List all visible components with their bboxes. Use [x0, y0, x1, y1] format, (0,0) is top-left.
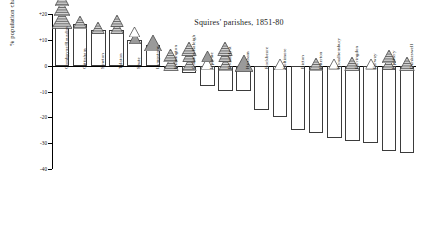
- category-label: Bicton: [300, 55, 305, 69]
- y-tick: [48, 169, 52, 170]
- triangle-stack: [129, 27, 141, 44]
- bar-column[interactable]: [200, 14, 215, 169]
- bar-column[interactable]: [91, 14, 106, 169]
- y-tick-label: -30: [40, 140, 47, 146]
- category-label: Dunkeswell: [409, 44, 414, 69]
- chart-root: Squires' parishes, 1851-80 % population …: [0, 0, 426, 231]
- bar-column[interactable]: [309, 14, 324, 169]
- bar[interactable]: [327, 66, 342, 138]
- y-tick: [48, 40, 52, 41]
- y-tick: [48, 117, 52, 118]
- category-label: Broadclyst: [227, 46, 232, 69]
- y-tick: [48, 92, 52, 93]
- triangle-marker: [92, 22, 105, 34]
- bar-column[interactable]: [109, 14, 124, 169]
- bar[interactable]: [273, 66, 288, 118]
- y-tick-label: -20: [40, 114, 47, 120]
- y-tick-label: -10: [40, 89, 47, 95]
- triangle-stack: [92, 22, 105, 34]
- y-tick-label: -40: [40, 166, 47, 172]
- category-label: Gittisham: [82, 48, 87, 69]
- bar-column[interactable]: [146, 14, 161, 169]
- category-label: Uplyme: [209, 52, 214, 69]
- bar[interactable]: [382, 66, 397, 151]
- category-label: Broadhembury: [336, 37, 341, 68]
- category-label: Lympstone: [155, 46, 160, 69]
- bar[interactable]: [363, 66, 378, 144]
- category-label: Sowton: [100, 53, 105, 69]
- category-label: Farway: [372, 53, 377, 69]
- y-tick-label: +10: [39, 37, 47, 43]
- category-label: Farringdon: [354, 45, 359, 68]
- category-label: Upottery: [391, 50, 396, 69]
- category-label: Rockbeare: [264, 46, 269, 68]
- bar-column[interactable]: [73, 14, 88, 169]
- bar[interactable]: [291, 66, 306, 131]
- category-label: Combpyne/Rousdon: [64, 26, 69, 69]
- triangle-stack: [110, 15, 123, 34]
- bar-column[interactable]: [164, 14, 179, 169]
- bar-column[interactable]: [345, 14, 360, 169]
- bar-column[interactable]: [254, 14, 269, 169]
- triangle-stack: [73, 16, 87, 29]
- bar[interactable]: [254, 66, 269, 110]
- triangle-marker: [55, 0, 69, 6]
- bar-column[interactable]: [382, 14, 397, 169]
- category-label: Poltimore: [282, 48, 287, 69]
- bar[interactable]: [345, 66, 360, 141]
- bar-column[interactable]: [400, 14, 415, 169]
- plot-area: +20+100-10-20-30-40: [52, 14, 416, 169]
- category-label: Talaton: [118, 53, 123, 69]
- category-label: Shute: [136, 57, 141, 69]
- triangle-stack: [52, 0, 72, 29]
- bar-column[interactable]: [218, 14, 233, 169]
- category-label: Huxham: [245, 51, 250, 69]
- bar[interactable]: [400, 66, 415, 154]
- category-label: Colaton Raleigh: [191, 35, 196, 69]
- bar[interactable]: [309, 66, 324, 133]
- bar-column[interactable]: [291, 14, 306, 169]
- bar-column[interactable]: [127, 14, 142, 169]
- bar-column[interactable]: [236, 14, 251, 169]
- bar-columns: [53, 14, 416, 169]
- triangle-marker: [73, 16, 87, 29]
- y-tick-label: +20: [39, 11, 47, 17]
- triangle-marker: [110, 15, 123, 27]
- bar-column[interactable]: [363, 14, 378, 169]
- y-axis-label: % population change: [8, 0, 15, 46]
- plot-inner: +20+100-10-20-30-40: [52, 14, 416, 169]
- category-label: Kilmington: [173, 45, 178, 69]
- y-tick-label: 0: [44, 63, 47, 69]
- bar-column[interactable]: [273, 14, 288, 169]
- triangle-marker: [129, 27, 140, 37]
- category-label: Otterton: [318, 51, 323, 68]
- y-tick: [48, 143, 52, 144]
